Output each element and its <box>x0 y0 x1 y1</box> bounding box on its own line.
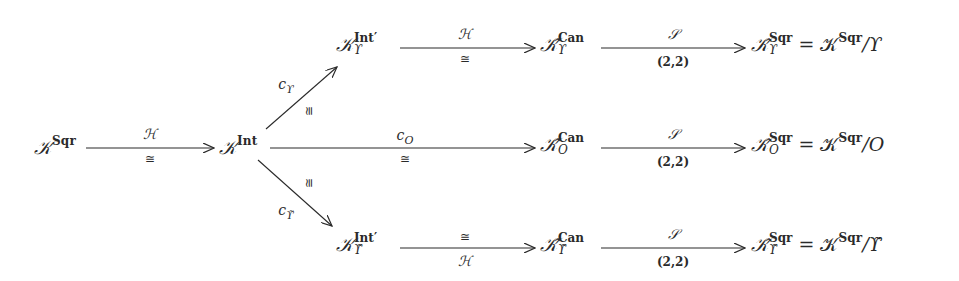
node-sub: ϒ̃ <box>558 244 584 256</box>
node-sub: ϒ̃ <box>354 244 377 256</box>
node-sub: ϒ̃ <box>769 244 792 256</box>
label-h-top-above: ℋ <box>455 26 475 42</box>
node-k-can-upsilon-tilde: 𝒦̂Canϒ̃ <box>540 234 584 258</box>
node-rhs-sup: Sqr <box>838 31 862 45</box>
node-base: 𝒦̂ <box>751 33 769 55</box>
label-c-upsilon-iso: ≅ <box>302 104 316 118</box>
node-base: 𝒦 <box>336 233 354 255</box>
label-h-bottom-above: ≅ <box>455 230 475 244</box>
label-c: c <box>278 202 286 218</box>
label-h-main-above: ℋ <box>140 126 160 142</box>
node-base: 𝒦̂ <box>540 233 558 255</box>
label-c-o: cO <box>390 127 420 143</box>
node-base: 𝒦̂ <box>751 233 769 255</box>
node-equals: = 𝒦 <box>798 33 838 55</box>
node-sup: Int <box>237 134 257 148</box>
node-k-can-upsilon: 𝒦̂Canϒ <box>540 34 584 58</box>
node-k-int-prime-upsilon-tilde: 𝒦Int′ϒ̃ <box>336 234 377 258</box>
node-k-sqr-upsilon-tilde: 𝒦̂Sqrϒ̃ = 𝒦Sqr/ϒ̃ <box>751 234 882 258</box>
node-base: 𝒦 <box>219 136 237 158</box>
label-h-main-below: ≅ <box>140 152 160 166</box>
label-c-upsilon-tilde: cϒ̃ <box>271 202 301 218</box>
node-rhs-tail: /O <box>862 133 884 155</box>
label-s-bottom-below: (2,2) <box>650 255 696 269</box>
label-c-o-iso: ≅ <box>395 152 415 166</box>
node-base: 𝒦 <box>336 33 354 55</box>
label-s-top-above: 𝒮 <box>660 26 686 43</box>
node-base: 𝒦̂ <box>540 133 558 155</box>
node-k-sqr-o: 𝒦̂SqrO = 𝒦Sqr/O <box>751 134 884 158</box>
node-sub: O <box>769 144 792 156</box>
label-s-top-below: (2,2) <box>650 55 696 69</box>
label-h-bottom-below: ℋ <box>455 253 475 269</box>
label-s-mid-below: (2,2) <box>650 155 696 169</box>
node-sup: Sqr <box>52 134 76 148</box>
node-rhs-tail: /ϒ̃ <box>862 233 881 255</box>
node-rhs-tail: /ϒ <box>862 33 881 55</box>
label-c-upsilon: cϒ <box>271 76 301 92</box>
label-c: c <box>278 76 286 92</box>
node-k-sqr-upsilon: 𝒦̂Sqrϒ = 𝒦Sqr/ϒ <box>751 34 882 58</box>
node-sub: O <box>558 144 584 156</box>
node-base: 𝒦̂ <box>540 33 558 55</box>
label-s-bottom-above: 𝒮 <box>660 226 686 243</box>
label-h-top-below: ≅ <box>455 52 475 66</box>
node-k-sqr: 𝒦Sqr <box>34 138 76 157</box>
node-base: 𝒦̂ <box>751 133 769 155</box>
node-equals: = 𝒦 <box>798 233 838 255</box>
node-k-int: 𝒦Int <box>219 138 257 157</box>
node-rhs-sup: Sqr <box>838 231 862 245</box>
node-sub: ϒ <box>769 44 792 56</box>
label-c-sub: ϒ̃ <box>286 209 294 222</box>
node-rhs-sup: Sqr <box>838 131 862 145</box>
node-sub: ϒ <box>354 44 377 56</box>
label-c-upsilon-tilde-iso: ≅ <box>302 176 316 190</box>
node-k-can-o: 𝒦̂CanO <box>540 134 584 158</box>
label-c-sub: O <box>404 134 413 147</box>
label-c-sub: ϒ <box>286 83 294 96</box>
node-sub: ϒ <box>558 44 584 56</box>
node-k-int-prime-upsilon: 𝒦Int′ϒ <box>336 34 377 58</box>
label-s-mid-above: 𝒮 <box>660 126 686 143</box>
node-equals: = 𝒦 <box>798 133 838 155</box>
node-base: 𝒦 <box>34 136 52 158</box>
